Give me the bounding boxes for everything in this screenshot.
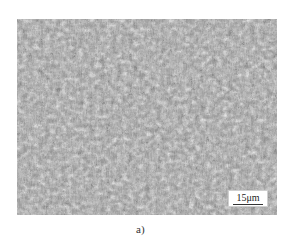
microstructure-texture (17, 19, 277, 215)
micrograph-image (17, 19, 277, 215)
figure-caption: a) (136, 223, 145, 235)
scale-bar-label: 15μm (229, 192, 267, 203)
figure: 15μm a) (0, 0, 288, 243)
scale-bar-line (233, 204, 263, 205)
scale-bar: 15μm (228, 190, 268, 207)
